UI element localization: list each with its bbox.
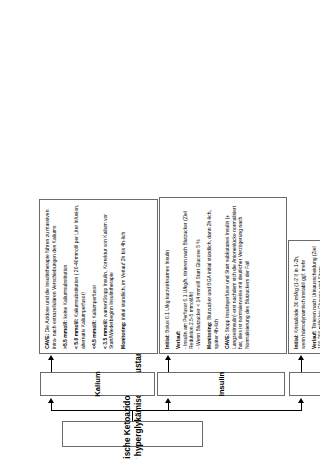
title-line-2: Hyperosmolarer hyperglykämischer Zustand	[133, 346, 143, 459]
detail-body: Kaliumperfusor	[91, 285, 97, 320]
arrow-spine-to-kalium	[48, 398, 54, 403]
diagram-title-box: Diabetische Ketoazidose/ Hyperosmolarer …	[62, 421, 203, 447]
detail-heading: < 5.0 mmol/l:	[73, 319, 79, 349]
category-label-insulin: Insulin	[217, 372, 226, 396]
detail-heading: CAVE:	[224, 334, 230, 349]
category-label-kalium: Kalium	[93, 371, 102, 396]
detail-body: - Insulin am Perfusor 0.1 U/kg/h, titrie…	[182, 211, 201, 349]
detail-text-insulin: Initial: Bolus 0.1 U/kg kurzwirksames In…	[164, 202, 251, 349]
connector-spine-to-kalium	[51, 403, 52, 411]
detail-paragraph: <4.5 mmol/l: Kaliumperfusor	[91, 204, 98, 349]
category-box-insulin[interactable]: Insulin	[157, 372, 262, 396]
detail-heading: <4.5 mmol/l:	[91, 320, 97, 349]
connector-insulin-to-detail	[168, 360, 169, 372]
detail-heading: CAVE:	[44, 334, 50, 349]
detail-box-kalium: CAVE: Die Azidose und die Insulintherapi…	[39, 199, 158, 354]
detail-body: initial stündlich, im Verlauf 2h bis 4h-…	[120, 232, 126, 322]
detail-body: Die Azidose und die Insulintherapie führ…	[44, 210, 57, 349]
detail-paragraph: >5.5 mmol/l: keine Kaliumsubstitution	[62, 204, 69, 349]
detail-heading: Initial:	[164, 334, 170, 349]
flowchart: Diabetische Ketoazidose/ Hyperosmolarer …	[0, 0, 262, 459]
detail-paragraph: Monitoring: Blutzucker und BGA initial s…	[206, 202, 219, 349]
detail-paragraph: < 3.5 mmol/l: warten/Stopp Insulin, Korr…	[102, 204, 115, 349]
detail-body: keine Kaliumsubstitution	[62, 265, 68, 320]
category-box-kalium[interactable]: Kalium	[40, 372, 155, 396]
detail-paragraph: Monitoring: initial stündlich, im Verlau…	[120, 204, 127, 349]
detail-paragraph: CAVE: Stopp Insulinperfusor und Start su…	[224, 202, 251, 349]
detail-heading: Verlauf:	[175, 331, 181, 349]
diagram-stage: Diabetische Ketoazidose/ Hyperosmolarer …	[0, 0, 262, 459]
detail-paragraph: Initial: Bolus 0.1 U/kg kurzwirksames In…	[164, 202, 171, 349]
page-title: Diabetische Ketoazidose/ Hyperosmolarer …	[122, 346, 143, 459]
detail-heading: < 3.5 mmol/l:	[102, 319, 108, 349]
detail-heading: >5.5 mmol/l:	[62, 320, 68, 349]
title-spine-vertical	[51, 410, 262, 411]
detail-body: Stopp Insulinperfusor und Start subkutan…	[224, 206, 250, 349]
detail-paragraph: CAVE: Die Azidose und die Insulintherapi…	[44, 204, 57, 349]
arrow-kalium-to-detail	[48, 355, 54, 360]
title-spine-stub	[132, 410, 133, 421]
detail-paragraph: Verlauf: - Insulin am Perfusor 0.1 U/kg/…	[175, 202, 202, 349]
diagram-canvas: Diabetische Ketoazidose/ Hyperosmolarer …	[0, 0, 262, 459]
arrow-insulin-to-detail	[165, 355, 171, 360]
detail-heading: Monitoring:	[120, 322, 126, 350]
arrow-spine-to-insulin	[165, 398, 171, 403]
detail-body: Bolus 0.1 U/kg kurzwirksames Insulin	[164, 250, 170, 334]
connector-kalium-to-detail	[51, 360, 52, 372]
detail-paragraph: < 5.0 mmol/l: Kaliumsubstitution ( 20-40…	[73, 204, 86, 349]
detail-heading: Monitoring:	[206, 322, 212, 350]
detail-box-insulin: Initial: Bolus 0.1 U/kg kurzwirksames In…	[159, 197, 262, 354]
connector-spine-to-insulin	[168, 403, 169, 411]
detail-text-kalium: CAVE: Die Azidose und die Insulintherapi…	[44, 204, 126, 349]
